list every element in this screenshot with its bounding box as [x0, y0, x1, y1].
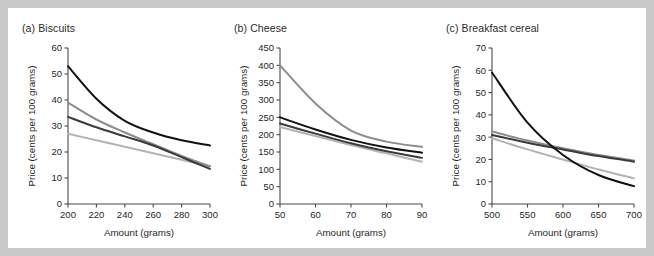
y-tick-label: 30 — [51, 120, 62, 131]
x-tick-label: 220 — [88, 209, 104, 220]
y-tick-label: 450 — [258, 42, 274, 53]
y-tick-label: 20 — [475, 154, 486, 165]
chart-svg: 0501001502002503003504004505060708090Amo… — [220, 36, 432, 248]
x-tick-label: 300 — [202, 209, 218, 220]
x-tick-label: 200 — [60, 209, 76, 220]
plot-area-breakfast-cereal: 010203040506070500550600650700Amount (gr… — [432, 36, 644, 248]
panel-biscuits: (a) Biscuits 010203040506020022024026028… — [8, 8, 220, 248]
y-tick-label: 250 — [258, 112, 274, 123]
y-tick-label: 10 — [475, 176, 486, 187]
x-tick-label: 260 — [145, 209, 161, 220]
y-tick-label: 60 — [51, 42, 62, 53]
x-tick-label: 240 — [117, 209, 133, 220]
x-tick-label: 500 — [484, 209, 500, 220]
panel-title-biscuits: (a) Biscuits — [22, 22, 75, 34]
series-line-series_2 — [280, 65, 422, 146]
y-tick-label: 0 — [57, 198, 62, 209]
series-line-series_1 — [492, 73, 634, 187]
y-tick-label: 100 — [258, 164, 274, 175]
y-tick-label: 50 — [263, 181, 274, 192]
y-tick-label: 0 — [481, 198, 486, 209]
y-tick-label: 10 — [51, 172, 62, 183]
y-tick-label: 300 — [258, 94, 274, 105]
panel-breakfast-cereal: (c) Breakfast cereal 0102030405060705005… — [432, 8, 644, 248]
y-axis-title-group: Price (cents per 100 grams) — [26, 66, 37, 187]
x-tick-label: 280 — [174, 209, 190, 220]
y-tick-label: 40 — [51, 94, 62, 105]
panel-title-breakfast-cereal: (c) Breakfast cereal — [446, 22, 539, 34]
plot-area-cheese: 0501001502002503003504004505060708090Amo… — [220, 36, 432, 248]
x-tick-label: 550 — [520, 209, 536, 220]
y-axis-title: Price (cents per 100 grams) — [450, 66, 461, 187]
x-tick-label: 50 — [275, 209, 286, 220]
series-line-series_1 — [68, 66, 210, 145]
y-axis-title: Price (cents per 100 grams) — [238, 66, 249, 187]
y-axis-title-group: Price (cents per 100 grams) — [450, 66, 461, 187]
y-axis-title-group: Price (cents per 100 grams) — [238, 66, 249, 187]
x-axis-title: Amount (grams) — [528, 227, 598, 238]
x-tick-label: 650 — [591, 209, 607, 220]
y-tick-label: 200 — [258, 129, 274, 140]
y-axis-title: Price (cents per 100 grams) — [26, 66, 37, 187]
series-line-series_2 — [68, 103, 210, 167]
y-tick-label: 50 — [475, 87, 486, 98]
y-tick-label: 0 — [269, 198, 274, 209]
plot-area-biscuits: 0102030405060200220240260280300Amount (g… — [8, 36, 220, 248]
figure-root: (a) Biscuits 010203040506020022024026028… — [0, 0, 654, 256]
y-tick-label: 60 — [475, 65, 486, 76]
x-tick-label: 600 — [555, 209, 571, 220]
y-tick-label: 400 — [258, 60, 274, 71]
y-tick-label: 30 — [475, 132, 486, 143]
x-tick-label: 80 — [381, 209, 392, 220]
figure-card: (a) Biscuits 010203040506020022024026028… — [8, 8, 646, 248]
series-line-series_1 — [280, 117, 422, 152]
y-tick-label: 350 — [258, 77, 274, 88]
series-line-series_3 — [68, 117, 210, 169]
y-tick-label: 40 — [475, 109, 486, 120]
chart-svg: 010203040506070500550600650700Amount (gr… — [432, 36, 644, 248]
y-tick-label: 20 — [51, 146, 62, 157]
x-tick-label: 60 — [310, 209, 321, 220]
panel-title-cheese: (b) Cheese — [234, 22, 287, 34]
x-axis-title: Amount (grams) — [104, 227, 174, 238]
x-tick-label: 90 — [417, 209, 428, 220]
x-tick-label: 70 — [346, 209, 357, 220]
y-tick-label: 150 — [258, 146, 274, 157]
panel-row: (a) Biscuits 010203040506020022024026028… — [8, 8, 646, 248]
x-tick-label: 700 — [626, 209, 642, 220]
y-tick-label: 70 — [475, 42, 486, 53]
chart-svg: 0102030405060200220240260280300Amount (g… — [8, 36, 220, 248]
x-axis-title: Amount (grams) — [316, 227, 386, 238]
panel-cheese: (b) Cheese 05010015020025030035040045050… — [220, 8, 432, 248]
y-tick-label: 50 — [51, 68, 62, 79]
